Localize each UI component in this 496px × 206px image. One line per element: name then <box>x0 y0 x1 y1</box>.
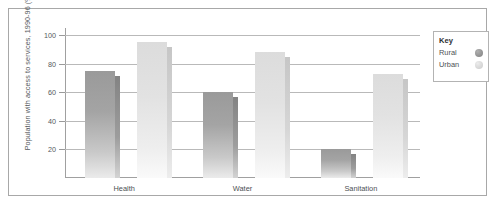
bar-face <box>373 74 403 178</box>
legend-swatch-circle-dark <box>475 49 483 57</box>
legend-swatch-circle-light <box>475 61 483 69</box>
legend-item-label: Rural <box>439 48 457 57</box>
bar-side-face <box>233 97 238 178</box>
x-axis-category-label: Water <box>233 184 252 193</box>
bar-face <box>203 92 233 178</box>
bar-side-face <box>115 76 120 178</box>
bar-group: Sanitation <box>302 28 420 178</box>
plot-area: 20406080100 HealthWaterSanitation <box>65 28 420 178</box>
y-tick-label: 40 <box>48 116 56 125</box>
bar-side-face <box>403 79 408 178</box>
bar-face <box>321 149 351 178</box>
bar-face <box>255 52 285 178</box>
legend-title: Key <box>439 36 483 45</box>
y-tick-label: 60 <box>48 88 56 97</box>
bar-side-face <box>167 47 172 178</box>
chart-frame: Population with access to services, 1990… <box>8 8 487 196</box>
bar-health-rural <box>85 71 115 178</box>
bar-sanitation-urban <box>373 74 403 178</box>
y-axis-label: Population with access to services, 1990… <box>23 0 32 152</box>
x-axis-category-label: Sanitation <box>344 184 377 193</box>
bar-side-face <box>285 57 290 178</box>
legend-item-label: Urban <box>439 60 459 69</box>
legend-item-rural[interactable]: Rural <box>439 48 483 57</box>
bar-water-urban <box>255 52 285 178</box>
legend-item-urban[interactable]: Urban <box>439 60 483 69</box>
bar-side-face <box>351 154 356 178</box>
bar-group: Health <box>65 28 183 178</box>
bar-face <box>85 71 115 178</box>
bar-health-urban <box>137 42 167 178</box>
bar-face <box>137 42 167 178</box>
x-axis-category-label: Health <box>113 184 134 193</box>
bar-group: Water <box>183 28 301 178</box>
legend-key-box: Key RuralUrban <box>433 31 489 82</box>
y-tick-label: 20 <box>48 145 56 154</box>
legend-entries: RuralUrban <box>439 48 483 69</box>
y-tick-label: 80 <box>48 59 56 68</box>
bar-sanitation-rural <box>321 149 351 178</box>
bar-water-rural <box>203 92 233 178</box>
y-tick-label: 100 <box>44 31 56 40</box>
